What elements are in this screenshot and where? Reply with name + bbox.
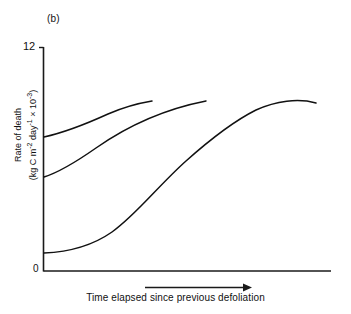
y-axis-label-line1: Rate of death: [13, 108, 24, 162]
chart-figure: (b) 12 0 Rate of death (kg C m-2 day-1 ×…: [0, 0, 351, 314]
x-axis-label: Time elapsed since previous defoliation: [0, 292, 351, 303]
x-axis-direction-arrow: [145, 284, 252, 292]
y-axis-label-line2: (kg C m-2 day-1 × 10-3): [24, 90, 39, 181]
y-axis-label-sup-exp3: -3: [26, 93, 33, 99]
y-axis-label-units-times: × 10: [28, 99, 38, 119]
y-axis-label: Rate of death (kg C m-2 day-1 × 10-3): [13, 65, 39, 205]
panel-label: (b): [47, 13, 60, 24]
chart-plot-svg: [0, 0, 351, 314]
y-axis-label-sup-day1: -1: [26, 119, 33, 125]
y-axis-label-sup-m2: -2: [26, 143, 33, 149]
data-curve-upper: [44, 101, 152, 137]
y-axis-label-units-post: ): [28, 90, 38, 93]
y-axis-tick-label-0: 0: [33, 263, 39, 274]
y-axis-label-units-mid: day: [28, 126, 38, 143]
y-axis-tick-label-12: 12: [23, 40, 35, 52]
y-axis-label-units-pre: (kg C m: [28, 149, 38, 181]
